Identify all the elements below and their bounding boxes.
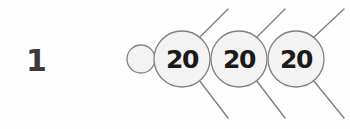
figure-container: 1 20 20 20 [0, 0, 350, 129]
value-circle-1-label: 20 [166, 45, 199, 74]
connector-line-3-lower [313, 80, 344, 118]
connector-line-1-lower [199, 80, 228, 118]
value-circle-1[interactable]: 20 [154, 31, 210, 87]
lead-circle[interactable] [127, 45, 155, 73]
lead-circle-shape[interactable] [127, 45, 155, 73]
connector-line-1-upper [199, 9, 228, 38]
value-circle-3-label: 20 [280, 45, 313, 74]
connector-line-2-lower [256, 80, 285, 118]
connector-line-2-upper [256, 9, 285, 38]
number-bond-diagram: 20 20 20 [0, 0, 350, 129]
value-circle-3[interactable]: 20 [268, 31, 324, 87]
value-circle-2-label: 20 [223, 45, 256, 74]
value-circle-2[interactable]: 20 [211, 31, 267, 87]
connector-line-3-upper [313, 9, 344, 38]
